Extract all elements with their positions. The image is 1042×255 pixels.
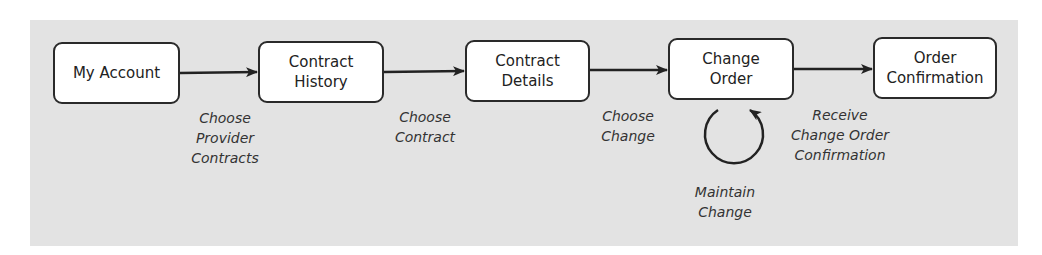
node-label: Order Confirmation [886, 48, 983, 88]
node-label: Change Order [702, 49, 759, 89]
arrow-history-to-details [384, 71, 464, 72]
node-label: My Account [73, 63, 160, 83]
node-change-order: Change Order [668, 38, 794, 100]
edge-label-choose-contract: Choose Contract [380, 107, 470, 147]
node-contract-details: Contract Details [465, 40, 590, 102]
self-loop-arrow [705, 110, 763, 163]
edge-label-choose-provider-contracts: Choose Provider Contracts [175, 108, 275, 168]
node-label: Contract History [289, 52, 354, 92]
node-contract-history: Contract History [258, 41, 384, 103]
edge-label-receive-confirmation: Receive Change Order Confirmation [770, 105, 910, 165]
node-order-confirmation: Order Confirmation [873, 37, 997, 99]
node-label: Contract Details [495, 51, 560, 91]
arrow-myaccount-to-history [180, 72, 257, 73]
edge-label-choose-change: Choose Change [588, 106, 668, 146]
node-my-account: My Account [53, 42, 180, 104]
self-loop-label-maintain-change: Maintain Change [680, 182, 770, 222]
